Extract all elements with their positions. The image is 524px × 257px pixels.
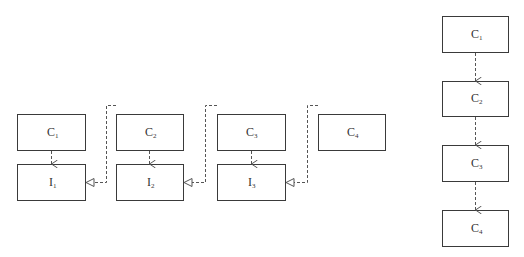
component-c4: C4	[319, 115, 386, 151]
interface-subscript: 2	[151, 182, 155, 190]
component-label: C	[471, 221, 479, 235]
interface-i2: I2	[117, 165, 184, 201]
component-label: C	[145, 125, 153, 139]
component-c3: C3	[218, 115, 286, 151]
component-subscript: 2	[153, 132, 157, 140]
component-c2: C2	[443, 82, 509, 117]
component-label: C	[471, 27, 479, 41]
component-label: C	[47, 125, 55, 139]
component-c1: C1	[443, 17, 509, 53]
component-c4: C4	[443, 211, 509, 247]
component-subscript: 4	[479, 228, 483, 236]
right-diagram: C1 C2 C3 C4	[443, 17, 509, 247]
realization-c2-i1	[86, 106, 116, 187]
component-label: C	[471, 91, 479, 105]
left-diagram: C1 C2 C3 C4 I1 I2 I3	[18, 106, 386, 201]
component-subscript: 1	[55, 132, 59, 140]
component-subscript: 3	[254, 132, 258, 140]
hollow-triangle-icon	[184, 179, 192, 187]
hollow-triangle-icon	[86, 179, 94, 187]
realization-c3-i2	[184, 106, 217, 187]
component-label: C	[347, 125, 355, 139]
component-subscript: 2	[479, 98, 483, 106]
component-subscript: 1	[479, 34, 483, 42]
component-subscript: 4	[355, 132, 359, 140]
interface-subscript: 1	[53, 182, 57, 190]
interface-i3: I3	[218, 165, 286, 201]
component-c2: C2	[117, 115, 184, 151]
component-c1: C1	[18, 115, 86, 151]
component-c3: C3	[443, 146, 509, 182]
interface-i1: I1	[18, 165, 86, 201]
realization-c4-i3	[286, 106, 318, 187]
interface-subscript: 3	[252, 182, 256, 190]
component-label: C	[471, 156, 479, 170]
hollow-triangle-icon	[286, 179, 294, 187]
component-label: C	[246, 125, 254, 139]
component-subscript: 3	[479, 163, 483, 171]
diagram-canvas: C1 C2 C3 C4 I1 I2 I3	[0, 0, 524, 257]
